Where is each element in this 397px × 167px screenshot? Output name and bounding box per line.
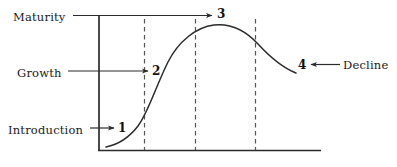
stage-number-2: 2 xyxy=(152,64,160,78)
stage-number-3: 3 xyxy=(217,7,225,21)
stage-number-1: 1 xyxy=(118,121,126,135)
label-decline: Decline xyxy=(343,58,388,72)
life-cycle-curve xyxy=(106,25,296,147)
label-maturity: Maturity xyxy=(13,10,66,24)
stage-number-4: 4 xyxy=(298,58,306,72)
product-life-cycle-diagram: Maturity Growth Introduction Decline 1 2… xyxy=(0,0,397,167)
label-introduction: Introduction xyxy=(8,123,83,137)
label-growth: Growth xyxy=(17,66,62,80)
diagram-canvas xyxy=(0,0,397,167)
